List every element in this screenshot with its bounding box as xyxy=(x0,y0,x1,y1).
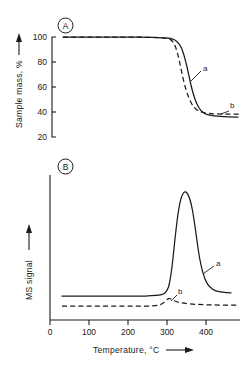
panel-a-curve-a-label-group: a xyxy=(190,64,208,82)
panel-b-y-axis-title: MS signal xyxy=(24,260,34,300)
panel-b-curve-a xyxy=(62,192,231,296)
panel-a-ylabel-80: 80 xyxy=(38,57,48,67)
panel-a-curve-a xyxy=(63,37,238,117)
panel-b-xlabel-0: 0 xyxy=(48,327,53,337)
panel-b-x-axis-title: Temperature, °C xyxy=(93,345,159,355)
panel-b-xlabel-100: 100 xyxy=(82,327,96,337)
panel-b-y-axis-title-group: MS signal xyxy=(24,224,34,300)
panel-b-curve-b xyxy=(62,299,238,306)
panel-b-xlabel-200: 200 xyxy=(121,327,135,337)
panel-b-x-axis-title-group: Temperature, °C xyxy=(93,345,194,355)
panel-a-y-axis-title: Sample mass, % xyxy=(14,60,24,128)
panel-a-label: A xyxy=(63,21,69,31)
panel-a-curve-b xyxy=(63,37,240,114)
panel-b-marker: B xyxy=(58,159,73,174)
panel-b-xlabel-400: 400 xyxy=(199,327,213,337)
panel-a-ylabel-40: 40 xyxy=(38,107,48,117)
panel-b-curve-b-label: b xyxy=(178,287,183,296)
panel-a-marker: A xyxy=(58,18,73,33)
panel-a-ylabel-20: 20 xyxy=(38,132,48,142)
panel-b-curve-b-leader xyxy=(171,295,177,301)
panel-b-curve-a-leader xyxy=(203,266,214,274)
panel-b: B 0 100 200 300 400 MS signal xyxy=(24,159,240,355)
panel-a-ylabel-100: 100 xyxy=(33,32,47,42)
figure-svg: A 100 80 60 40 20 Sample mass, % xyxy=(0,0,251,365)
panel-a-curve-a-leader xyxy=(190,71,201,82)
panel-b-label: B xyxy=(63,162,69,172)
panel-a-curve-b-label: b xyxy=(230,101,235,110)
panel-a-y-arrow-head-icon xyxy=(16,33,22,42)
panel-b-curve-b-label-group: b xyxy=(171,287,183,301)
panel-a-curve-a-label: a xyxy=(203,64,208,73)
panel-a-ylabel-60: 60 xyxy=(38,82,48,92)
panel-b-curve-a-label: a xyxy=(216,259,221,268)
panel-b-curve-a-label-group: a xyxy=(203,259,221,274)
panel-b-xlabel-300: 300 xyxy=(160,327,174,337)
panel-a-y-axis-title-group: Sample mass, % xyxy=(14,33,24,128)
figure-root: A 100 80 60 40 20 Sample mass, % xyxy=(0,0,251,365)
panel-a: A 100 80 60 40 20 Sample mass, % xyxy=(14,18,240,142)
panel-b-y-arrow-head-icon xyxy=(26,224,32,233)
panel-a-curve-b-label-group: b xyxy=(221,101,235,114)
panel-b-x-arrow-head-icon xyxy=(185,347,194,353)
